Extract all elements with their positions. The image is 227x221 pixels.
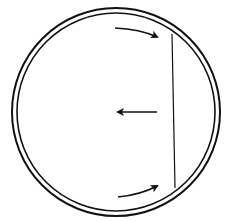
upper-curved-arrow-icon <box>115 28 157 37</box>
outer-circle <box>12 8 220 216</box>
inner-circle <box>17 13 215 211</box>
lower-curved-arrow-icon <box>118 186 157 197</box>
vertical-chord <box>172 34 175 188</box>
diagram-canvas <box>0 0 227 221</box>
